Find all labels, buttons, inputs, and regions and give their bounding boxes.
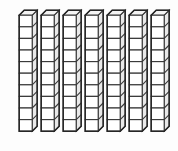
unit-cube-front (63, 27, 76, 39)
unit-cube-front (19, 108, 32, 120)
unit-cube-front (19, 120, 32, 132)
unit-cube-front (41, 15, 54, 27)
unit-cube-front (19, 27, 32, 39)
unit-cube-front (19, 38, 32, 50)
unit-cube-front (85, 50, 98, 62)
unit-cube-front (107, 85, 120, 97)
unit-cube-front (19, 96, 32, 108)
unit-cube-front (63, 15, 76, 27)
unit-cube-front (151, 120, 164, 132)
unit-cube-front (129, 62, 142, 74)
unit-cube-front (151, 15, 164, 27)
tens-rod-graphic (84, 9, 106, 134)
tens-rod-graphic (128, 9, 150, 134)
unit-cube-front (151, 96, 164, 108)
unit-cube-front (107, 15, 120, 27)
unit-cube-front (85, 120, 98, 132)
unit-cube-front (107, 50, 120, 62)
unit-cube-front (41, 50, 54, 62)
unit-cube-front (129, 96, 142, 108)
unit-cube-front (85, 85, 98, 97)
unit-cube-front (107, 38, 120, 50)
tens-rod (128, 9, 150, 134)
unit-cube-front (151, 38, 164, 50)
tens-rod (106, 9, 128, 134)
unit-cube-front (129, 108, 142, 120)
unit-cube-front (63, 62, 76, 74)
tens-rod-graphic (62, 9, 84, 134)
unit-cube-front (19, 62, 32, 74)
unit-cube-front (85, 27, 98, 39)
unit-cube-front (41, 120, 54, 132)
unit-cube-front (107, 108, 120, 120)
unit-cube-front (151, 27, 164, 39)
unit-cube-front (63, 38, 76, 50)
unit-cube-front (107, 73, 120, 85)
unit-cube-front (85, 108, 98, 120)
unit-cube-front (19, 73, 32, 85)
unit-cube-front (63, 120, 76, 132)
unit-cube-front (129, 38, 142, 50)
unit-cube-front (85, 62, 98, 74)
unit-cube-front (41, 108, 54, 120)
unit-cube-front (41, 62, 54, 74)
tens-rod (18, 9, 40, 134)
unit-cube-front (85, 38, 98, 50)
base-ten-blocks-figure: Base ten blocks: seven tens rods (0, 0, 178, 151)
unit-cube-front (85, 96, 98, 108)
unit-cube-front (63, 73, 76, 85)
unit-cube-front (41, 27, 54, 39)
unit-cube-front (107, 62, 120, 74)
tens-rod-graphic (18, 9, 40, 134)
unit-cube-front (85, 15, 98, 27)
tens-rod-graphic (40, 9, 62, 134)
unit-cube-front (41, 38, 54, 50)
unit-cube-front (63, 96, 76, 108)
unit-cube-front (107, 120, 120, 132)
unit-cube-front (129, 73, 142, 85)
tens-rods-group (0, 0, 178, 151)
tens-rod (62, 9, 84, 134)
unit-cube-front (19, 15, 32, 27)
unit-cube-front (107, 27, 120, 39)
unit-cube-front (129, 85, 142, 97)
unit-cube-front (19, 85, 32, 97)
unit-cube-front (107, 96, 120, 108)
unit-cube-front (63, 108, 76, 120)
unit-cube-front (63, 85, 76, 97)
unit-cube-front (151, 62, 164, 74)
unit-cube-front (129, 27, 142, 39)
unit-cube-front (41, 73, 54, 85)
unit-cube-front (151, 50, 164, 62)
unit-cube-front (129, 50, 142, 62)
unit-cube-front (129, 120, 142, 132)
unit-cube-front (151, 108, 164, 120)
unit-cube-front (19, 50, 32, 62)
unit-cube-front (41, 85, 54, 97)
unit-cube-front (151, 85, 164, 97)
tens-rod (40, 9, 62, 134)
unit-cube-front (151, 73, 164, 85)
unit-cube-front (85, 73, 98, 85)
tens-rod-graphic (150, 9, 172, 134)
tens-rod-graphic (106, 9, 128, 134)
unit-cube-front (129, 15, 142, 27)
tens-rod (84, 9, 106, 134)
tens-rod (150, 9, 172, 134)
unit-cube-front (63, 50, 76, 62)
unit-cube-front (41, 96, 54, 108)
